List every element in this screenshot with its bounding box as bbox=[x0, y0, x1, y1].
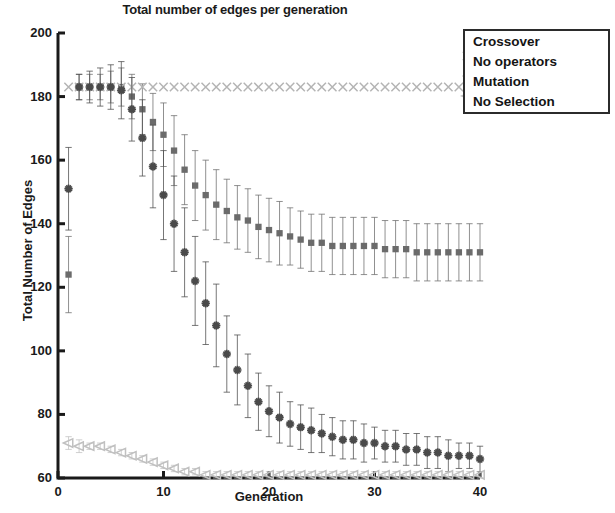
data-point-marker bbox=[223, 83, 231, 91]
series-no-selection bbox=[63, 437, 484, 479]
data-point-marker bbox=[328, 83, 336, 91]
data-point-marker bbox=[413, 83, 421, 91]
data-point-marker bbox=[444, 83, 452, 91]
chart-figure: Total number of edges per generation Tot… bbox=[0, 0, 615, 513]
data-point-marker bbox=[224, 209, 229, 214]
data-point-marker bbox=[349, 436, 357, 444]
data-point-marker bbox=[193, 183, 198, 188]
data-point-marker bbox=[370, 83, 378, 91]
data-point-marker bbox=[233, 366, 241, 374]
data-point-marker bbox=[202, 83, 210, 91]
data-point-marker bbox=[318, 83, 326, 91]
data-point-marker bbox=[286, 420, 294, 428]
data-point-marker bbox=[182, 167, 187, 172]
data-point-marker bbox=[381, 442, 389, 450]
data-point-marker bbox=[203, 193, 208, 198]
y-tick-200: 200 bbox=[12, 25, 52, 40]
data-point-marker bbox=[214, 202, 219, 207]
data-point-marker bbox=[212, 321, 220, 329]
data-point-marker bbox=[180, 248, 188, 256]
data-point-marker bbox=[256, 224, 261, 229]
data-point-marker bbox=[457, 250, 462, 255]
data-point-marker bbox=[298, 237, 303, 242]
data-point-marker bbox=[455, 452, 463, 460]
data-point-marker bbox=[360, 439, 368, 447]
data-point-marker bbox=[339, 83, 347, 91]
data-point-marker bbox=[66, 272, 71, 277]
y-axis-label: Total Number of Edges bbox=[20, 151, 35, 351]
series-mutation bbox=[64, 62, 484, 472]
x-tick-30: 30 bbox=[355, 484, 395, 499]
x-tick-0: 0 bbox=[38, 484, 78, 499]
data-point-marker bbox=[254, 398, 262, 406]
y-tick-100: 100 bbox=[12, 343, 52, 358]
data-point-marker bbox=[151, 120, 156, 125]
data-point-marker bbox=[235, 215, 240, 220]
data-point-marker bbox=[246, 218, 251, 223]
data-point-marker bbox=[202, 299, 210, 307]
data-point-marker bbox=[265, 407, 273, 415]
data-point-marker bbox=[478, 250, 483, 255]
data-point-marker bbox=[64, 185, 72, 193]
data-point-marker bbox=[172, 148, 177, 153]
data-point-marker bbox=[180, 83, 188, 91]
data-point-marker bbox=[360, 83, 368, 91]
data-point-marker bbox=[349, 83, 357, 91]
x-tick-40: 40 bbox=[460, 484, 500, 499]
data-point-marker bbox=[275, 413, 283, 421]
data-point-marker bbox=[191, 277, 199, 285]
data-point-marker bbox=[296, 423, 304, 431]
x-tick-20: 20 bbox=[249, 484, 289, 499]
data-point-marker bbox=[170, 83, 178, 91]
y-tick-140: 140 bbox=[12, 216, 52, 231]
data-point-marker bbox=[277, 231, 282, 236]
data-point-marker bbox=[413, 445, 421, 453]
data-point-marker bbox=[340, 244, 345, 249]
data-point-marker bbox=[402, 83, 410, 91]
data-point-marker bbox=[351, 244, 356, 249]
y-tick-60: 60 bbox=[12, 470, 52, 485]
data-point-marker bbox=[318, 429, 326, 437]
series-no-operators bbox=[64, 83, 484, 91]
data-point-marker bbox=[265, 83, 273, 91]
data-point-marker bbox=[233, 83, 241, 91]
chart-legend: Crossover No operators Mutation No Selec… bbox=[463, 29, 610, 114]
data-point-marker bbox=[423, 448, 431, 456]
data-point-marker bbox=[435, 250, 440, 255]
y-tick-120: 120 bbox=[12, 279, 52, 294]
data-point-marker bbox=[330, 244, 335, 249]
legend-item-crossover[interactable]: Crossover bbox=[473, 34, 540, 49]
data-point-marker bbox=[309, 240, 314, 245]
data-point-marker bbox=[149, 83, 157, 91]
data-point-marker bbox=[391, 83, 399, 91]
data-point-marker bbox=[465, 452, 473, 460]
data-point-marker bbox=[381, 83, 389, 91]
data-point-marker bbox=[288, 234, 293, 239]
data-point-marker bbox=[212, 83, 220, 91]
data-point-marker bbox=[159, 83, 167, 91]
data-point-marker bbox=[425, 250, 430, 255]
data-point-marker bbox=[404, 247, 409, 252]
x-tick-10: 10 bbox=[144, 484, 184, 499]
y-tick-160: 160 bbox=[12, 152, 52, 167]
data-point-marker bbox=[393, 247, 398, 252]
data-point-marker bbox=[328, 432, 336, 440]
data-point-marker bbox=[296, 83, 304, 91]
data-point-marker bbox=[434, 448, 442, 456]
data-point-marker bbox=[362, 244, 367, 249]
data-point-marker bbox=[370, 439, 378, 447]
data-point-marker bbox=[444, 452, 452, 460]
series-crossover bbox=[65, 68, 483, 313]
data-point-marker bbox=[223, 350, 231, 358]
data-point-marker bbox=[286, 83, 294, 91]
legend-item-no-selection[interactable]: No Selection bbox=[473, 94, 555, 109]
legend-item-no-operators[interactable]: No operators bbox=[473, 54, 557, 69]
data-point-marker bbox=[128, 105, 136, 113]
legend-item-mutation[interactable]: Mutation bbox=[473, 74, 529, 89]
data-point-marker bbox=[64, 83, 72, 91]
y-tick-180: 180 bbox=[12, 89, 52, 104]
data-point-marker bbox=[244, 382, 252, 390]
data-point-marker bbox=[244, 83, 252, 91]
data-point-marker bbox=[414, 250, 419, 255]
data-point-marker bbox=[275, 83, 283, 91]
